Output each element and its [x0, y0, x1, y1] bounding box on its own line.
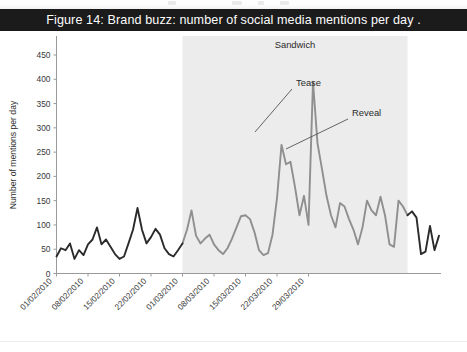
- scan-artifact: [0, 0, 467, 9]
- y-tick-label: 350: [37, 99, 51, 109]
- y-tick-label: 50: [41, 244, 51, 254]
- y-tick-label: 300: [37, 123, 51, 133]
- sandwich-shaded-region: [183, 36, 408, 274]
- annotation-sandwich-label: Sandwich: [275, 39, 316, 50]
- chart-figure: 050100150200250300350400450 01/02/201008…: [0, 31, 467, 352]
- annotation-tease-label: Tease: [296, 77, 321, 88]
- page-bottom-rule: [0, 341, 467, 342]
- figure-caption-text: Figure 14: Brand buzz: number of social …: [46, 13, 421, 27]
- line-chart: 050100150200250300350400450 01/02/201008…: [0, 31, 467, 352]
- y-axis-title: Number of mentions per day: [8, 100, 18, 209]
- y-tick-label: 100: [37, 220, 51, 230]
- y-tick-label: 250: [37, 147, 51, 157]
- annotation-reveal-label: Reveal: [352, 107, 381, 118]
- y-tick-label: 450: [37, 50, 51, 60]
- y-tick-label: 150: [37, 196, 51, 206]
- figure-caption-bar: Figure 14: Brand buzz: number of social …: [0, 9, 467, 31]
- y-tick-label: 400: [37, 74, 51, 84]
- figure-page: Figure 14: Brand buzz: number of social …: [0, 0, 467, 352]
- y-tick-label: 200: [37, 171, 51, 181]
